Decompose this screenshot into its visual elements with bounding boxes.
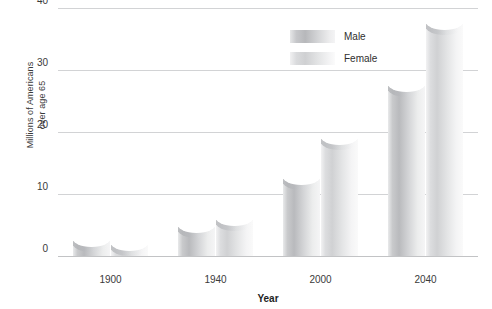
bar-1940-female[interactable] (216, 216, 253, 256)
x-tick-label-2040: 2040 (391, 274, 461, 285)
legend: Male Female (290, 30, 377, 65)
legend-label-male: Male (344, 31, 366, 42)
bar-1900-male[interactable] (73, 237, 110, 256)
legend-item-female[interactable]: Female (290, 52, 377, 65)
x-axis-title: Year (58, 293, 478, 304)
bar-2040-male[interactable] (388, 82, 425, 256)
y-tick-label-0: 0 (22, 243, 48, 254)
bar-2000-female[interactable] (321, 135, 358, 256)
bars-layer (58, 8, 478, 256)
y-tick-label-30: 30 (22, 57, 48, 68)
bar-2040-female[interactable] (426, 20, 463, 256)
bar-2000-male[interactable] (283, 175, 320, 256)
bar-chart: Millions of Americans over age 65 010203… (0, 0, 492, 309)
plot-area: 010203040 Male Female 1900194020002040 Y… (58, 8, 478, 256)
y-tick-label-40: 40 (22, 0, 48, 6)
x-tick-label-1900: 1900 (76, 274, 146, 285)
bar-1940-male[interactable] (178, 223, 215, 256)
gridline-0 (58, 256, 478, 257)
legend-label-female: Female (344, 53, 377, 64)
y-axis-title: Millions of Americans over age 65 (19, 35, 53, 175)
legend-item-male[interactable]: Male (290, 30, 377, 43)
bar-body (321, 135, 358, 256)
bar-body (426, 20, 463, 256)
legend-swatch-male-icon (290, 30, 335, 43)
x-tick-label-2000: 2000 (286, 274, 356, 285)
bar-body (388, 82, 425, 256)
x-tick-label-1940: 1940 (181, 274, 251, 285)
bar-1900-female[interactable] (111, 241, 148, 257)
y-tick-label-20: 20 (22, 119, 48, 130)
legend-swatch-female-icon (290, 52, 335, 65)
y-axis-title-line-1: Millions of Americans (24, 62, 36, 149)
y-tick-label-10: 10 (22, 181, 48, 192)
